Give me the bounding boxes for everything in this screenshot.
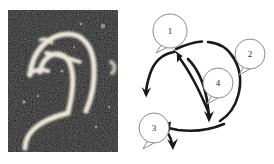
figure-container: 1 2 4 3 <box>0 0 274 164</box>
callout-3-label: 3 <box>152 123 157 133</box>
callout-2-label: 2 <box>248 49 253 59</box>
arrow-bottom-leftward <box>165 124 224 131</box>
arrow-top-curve-right <box>208 42 233 57</box>
arrow-top-left-descend <box>146 52 174 94</box>
callout-4-label: 4 <box>216 78 221 88</box>
schematic-diagram: 1 2 4 3 <box>132 4 272 162</box>
photo-grain <box>8 10 118 152</box>
angiogram-photograph <box>8 10 118 152</box>
callout-3[interactable]: 3 <box>139 113 169 149</box>
arrow-hook-down-head <box>167 139 178 151</box>
callout-1-label: 1 <box>168 26 173 36</box>
